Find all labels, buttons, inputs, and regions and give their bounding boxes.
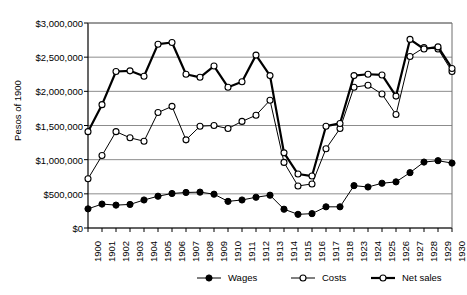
x-axis-tick-label: 1908 <box>204 241 215 262</box>
x-axis-tick-label: 1904 <box>148 241 159 262</box>
legend-marker-open-circle <box>370 272 396 284</box>
x-axis-tick-label: 1918 <box>344 241 355 262</box>
x-axis-tick-label: 1914 <box>288 241 299 262</box>
x-axis-tick-labels: 1900190119021903190419051906190719081909… <box>0 0 467 295</box>
x-axis-tick-label: 1924 <box>372 241 383 262</box>
x-axis-tick-label: 1925 <box>386 241 397 262</box>
x-axis-tick-label: 1911 <box>246 242 257 262</box>
x-axis-tick-label: 1929 <box>442 241 453 262</box>
x-axis-tick-label: 1900 <box>92 241 103 262</box>
legend-marker-open-circle <box>290 272 316 284</box>
x-axis-tick-label: 1910 <box>232 241 243 262</box>
x-axis-tick-label: 1927 <box>414 241 425 262</box>
x-axis-tick-label: 1903 <box>134 241 145 262</box>
legend-label: Net sales <box>402 272 442 283</box>
x-axis-tick-label: 1928 <box>428 241 439 262</box>
x-axis-tick-label: 1930 <box>456 241 467 262</box>
x-axis-tick-label: 1902 <box>120 241 131 262</box>
x-axis-tick-label: 1923 <box>358 241 369 262</box>
legend-label: Costs <box>322 272 346 283</box>
legend-label: Wages <box>228 272 257 283</box>
x-axis-tick-label: 1905 <box>162 241 173 262</box>
x-axis-tick-label: 1907 <box>190 241 201 262</box>
x-axis-tick-label: 1901 <box>106 241 117 262</box>
x-axis-tick-label: 1926 <box>400 241 411 262</box>
x-axis-tick-label: 1912 <box>260 241 271 262</box>
x-axis-tick-label: 1906 <box>176 241 187 262</box>
chart-figure: Pesos of 1900 $0$500,000$1,000,000$1,500… <box>0 0 467 295</box>
x-axis-tick-label: 1917 <box>330 241 341 262</box>
x-axis-tick-label: 1909 <box>218 241 229 262</box>
x-axis-tick-label: 1916 <box>316 241 327 262</box>
legend-marker-filled-circle <box>196 272 222 284</box>
x-axis-tick-label: 1913 <box>274 241 285 262</box>
chart-legend: WagesCostsNet sales <box>0 270 467 292</box>
x-axis-tick-label: 1915 <box>302 241 313 262</box>
